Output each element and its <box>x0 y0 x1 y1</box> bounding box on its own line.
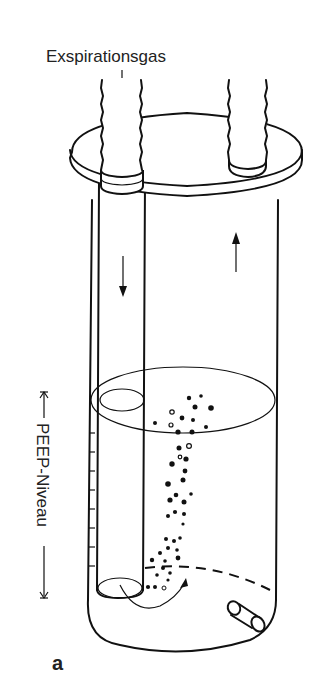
peep-water-seal-diagram: Exspirationsgas <box>0 0 318 698</box>
exspirationsgas-label: Exspirationsgas <box>46 47 166 66</box>
drain-valve[interactable] <box>225 599 267 634</box>
bubbles <box>146 394 214 590</box>
peep-level-indicator: PEEP-Niveau <box>33 392 52 598</box>
outlet-hose <box>228 78 267 177</box>
water-surface <box>91 367 275 433</box>
peep-niveau-label: PEEP-Niveau <box>33 423 52 527</box>
expiratory-gas-hose <box>101 78 143 194</box>
up-arrow-icon <box>232 232 240 272</box>
panel-label: a <box>52 652 64 674</box>
inner-tube <box>97 180 145 598</box>
down-arrow-icon <box>119 256 127 297</box>
flow-curve-arrow-icon <box>120 578 188 608</box>
